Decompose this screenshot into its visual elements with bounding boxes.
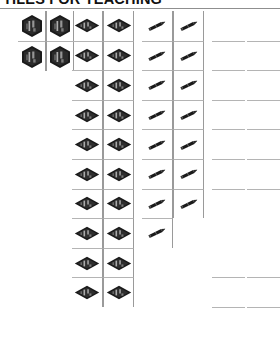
dot-cell[interactable] — [247, 70, 280, 100]
tile-cell[interactable] — [173, 100, 204, 130]
heading-divider — [0, 8, 280, 9]
tile-cell[interactable] — [142, 70, 173, 100]
dot-cell[interactable] — [212, 307, 245, 337]
tile-cell[interactable] — [173, 129, 204, 159]
tile-cell[interactable] — [72, 277, 103, 307]
tile-cell[interactable] — [103, 41, 134, 71]
tile-cell[interactable] — [72, 100, 103, 130]
dot-cell[interactable] — [212, 218, 245, 248]
diamond-tile-icon — [74, 137, 100, 152]
tile-cell[interactable] — [46, 11, 74, 41]
tile-cell[interactable] — [72, 248, 103, 278]
pencil-icon — [178, 197, 200, 211]
dot-cell[interactable] — [247, 248, 280, 278]
tile-cell[interactable] — [103, 277, 134, 307]
pencil-icon — [146, 19, 168, 33]
dot-cell[interactable] — [212, 159, 245, 189]
tile-cell[interactable] — [72, 218, 103, 248]
dot-cell[interactable] — [247, 307, 280, 337]
tile-cell[interactable] — [103, 159, 134, 189]
diamond-tile-icon — [74, 78, 100, 93]
diamond-tile-icon — [106, 78, 132, 93]
tile-cell[interactable] — [103, 218, 134, 248]
dot-cell[interactable] — [247, 129, 280, 159]
dot-cell[interactable] — [247, 159, 280, 189]
shield-tile-icon — [49, 14, 71, 38]
tile-cell[interactable] — [142, 11, 173, 41]
pencil-icon — [178, 167, 200, 181]
diamond-tile-icon — [74, 48, 100, 63]
diamond-tile-icon — [106, 48, 132, 63]
tile-cell[interactable] — [103, 100, 134, 130]
tile-cell[interactable] — [142, 159, 173, 189]
diamond-tile-icon — [106, 196, 132, 211]
tile-cell[interactable] — [142, 129, 173, 159]
tile-cell[interactable] — [173, 41, 204, 71]
tile-cell[interactable] — [72, 129, 103, 159]
pencil-icon — [146, 226, 168, 240]
dot-tile-column-2 — [247, 11, 280, 337]
tile-cell[interactable] — [18, 11, 46, 41]
tile-cell[interactable] — [173, 159, 204, 189]
tile-cell[interactable] — [103, 129, 134, 159]
shield-tile-icon — [21, 14, 43, 38]
tile-cell[interactable] — [173, 11, 204, 41]
tile-cell[interactable] — [173, 189, 204, 219]
diamond-tile-icon — [106, 137, 132, 152]
pencil-icon — [178, 108, 200, 122]
tile-cell[interactable] — [142, 189, 173, 219]
shield-tile-column-2 — [46, 11, 74, 71]
tiles-grid — [0, 11, 280, 338]
tile-cell[interactable] — [173, 70, 204, 100]
diamond-tile-column-2 — [103, 11, 134, 307]
shield-tile-column-1 — [18, 11, 46, 71]
tile-cell[interactable] — [72, 70, 103, 100]
tile-cell[interactable] — [103, 189, 134, 219]
tile-cell[interactable] — [142, 41, 173, 71]
diamond-tile-icon — [106, 256, 132, 271]
tile-cell[interactable] — [72, 11, 103, 41]
dot-cell[interactable] — [212, 70, 245, 100]
pencil-icon — [146, 197, 168, 211]
dot-cell[interactable] — [247, 189, 280, 219]
diamond-tile-icon — [74, 196, 100, 211]
dot-cell[interactable] — [212, 129, 245, 159]
tile-cell[interactable] — [103, 70, 134, 100]
diamond-tile-icon — [74, 18, 100, 33]
dot-cell[interactable] — [212, 41, 245, 71]
tile-cell[interactable] — [46, 41, 74, 71]
dot-cell[interactable] — [247, 41, 280, 71]
dot-cell[interactable] — [212, 277, 245, 307]
dot-cell[interactable] — [212, 11, 245, 41]
dot-tile-column-1 — [212, 11, 245, 337]
dot-cell[interactable] — [247, 100, 280, 130]
diamond-tile-icon — [74, 167, 100, 182]
dot-cell[interactable] — [212, 248, 245, 278]
diamond-tile-icon — [106, 285, 132, 300]
pencil-icon — [146, 78, 168, 92]
diamond-tile-icon — [106, 167, 132, 182]
dot-cell[interactable] — [247, 218, 280, 248]
tile-cell[interactable] — [103, 248, 134, 278]
diamond-tile-icon — [106, 226, 132, 241]
diamond-tile-icon — [74, 256, 100, 271]
tile-cell[interactable] — [142, 218, 173, 248]
page-title: TILES FOR TEACHING — [3, 0, 162, 7]
pencil-icon — [146, 167, 168, 181]
pencil-icon — [146, 108, 168, 122]
dot-cell[interactable] — [247, 11, 280, 41]
pencil-icon — [178, 138, 200, 152]
dot-cell[interactable] — [247, 277, 280, 307]
diamond-tile-icon — [74, 108, 100, 123]
pencil-icon — [178, 78, 200, 92]
tile-cell[interactable] — [72, 189, 103, 219]
tile-cell[interactable] — [72, 41, 103, 71]
tile-cell[interactable] — [103, 11, 134, 41]
shield-tile-icon — [49, 45, 71, 69]
dot-cell[interactable] — [212, 189, 245, 219]
pencil-icon — [146, 49, 168, 63]
tile-cell[interactable] — [72, 159, 103, 189]
tile-cell[interactable] — [18, 41, 46, 71]
dot-cell[interactable] — [212, 100, 245, 130]
tile-cell[interactable] — [142, 100, 173, 130]
